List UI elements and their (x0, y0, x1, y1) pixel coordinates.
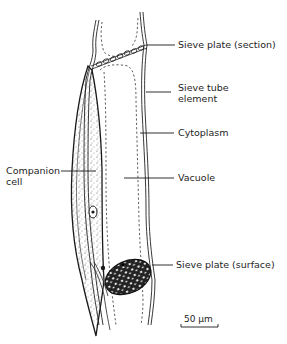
label-sieve-plate-surface: Sieve plate (surface) (176, 259, 275, 270)
companion-cell (71, 66, 105, 336)
label-vacuole: Vacuole (178, 172, 215, 183)
label-companion-cell-line1: Companion (6, 165, 60, 176)
sieve-plate-section (91, 45, 147, 69)
scale-bar-label: 50 µm (184, 314, 213, 325)
label-sieve-tube-element-line1: Sieve tube (178, 82, 229, 93)
label-companion-cell: Companion cell (6, 165, 60, 187)
label-sieve-plate-section: Sieve plate (section) (178, 39, 276, 50)
sieve-plate-surface (99, 252, 156, 301)
label-cytoplasm: Cytoplasm (178, 127, 229, 138)
label-sieve-tube-element-line2: element (178, 93, 229, 104)
label-companion-cell-line2: cell (6, 176, 60, 187)
label-sieve-tube-element: Sieve tube element (178, 82, 229, 104)
diagram-canvas: Sieve plate (section) Sieve tube element… (0, 0, 287, 344)
